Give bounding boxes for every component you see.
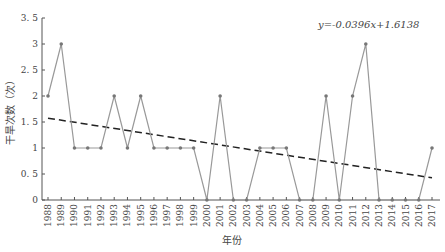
data-point — [324, 94, 328, 98]
data-point — [338, 198, 342, 202]
data-point — [192, 146, 196, 150]
data-point — [351, 94, 355, 98]
line-chart: 00. 511. 522. 533. 519881989199019911992… — [0, 0, 445, 252]
y-tick-label: 3. 5 — [21, 13, 38, 23]
data-point — [139, 94, 143, 98]
data-point — [205, 198, 209, 202]
y-tick-label: 1. 5 — [21, 117, 38, 127]
x-tick-label: 2007 — [295, 204, 305, 227]
data-point — [73, 146, 77, 150]
x-tick-label: 1991 — [83, 204, 93, 227]
x-tick-label: 2012 — [361, 204, 371, 227]
x-tick-label: 2008 — [308, 204, 318, 227]
data-point — [245, 198, 249, 202]
data-point — [377, 198, 381, 202]
data-point — [152, 146, 156, 150]
x-tick-label: 2013 — [374, 204, 384, 227]
x-tick-label: 1989 — [56, 204, 66, 227]
y-tick-label: 2. 5 — [21, 65, 38, 75]
trend-equation: y=-0.0396x+1.6138 — [317, 19, 419, 30]
x-tick-label: 2010 — [334, 204, 344, 227]
y-tick-label: 0. 5 — [21, 169, 38, 179]
x-tick-label: 1997 — [162, 204, 172, 227]
y-axis-label: 干旱次数（次） — [4, 75, 16, 145]
x-tick-label: 2015 — [401, 204, 411, 227]
data-point — [364, 42, 368, 46]
data-point — [165, 146, 169, 150]
data-series — [46, 42, 434, 202]
data-point — [404, 198, 408, 202]
data-point — [112, 94, 116, 98]
x-tick-label: 1994 — [122, 204, 132, 227]
x-tick-label: 1995 — [136, 204, 146, 227]
y-tick-label: 2 — [32, 91, 38, 101]
x-tick-label: 2016 — [414, 204, 424, 227]
x-tick-label: 2003 — [242, 204, 252, 227]
data-point — [285, 146, 289, 150]
x-tick-label: 2017 — [427, 204, 437, 227]
x-tick-label: 1988 — [43, 204, 53, 227]
x-tick-label: 1999 — [189, 204, 199, 227]
data-point — [46, 94, 50, 98]
data-point — [99, 146, 103, 150]
data-point — [298, 198, 302, 202]
x-tick-label: 2002 — [228, 204, 238, 227]
x-tick-label: 1996 — [149, 204, 159, 227]
data-point — [430, 146, 434, 150]
data-point — [271, 146, 275, 150]
data-point — [390, 198, 394, 202]
x-tick-label: 1998 — [175, 204, 185, 227]
data-point — [179, 146, 183, 150]
data-point — [59, 42, 63, 46]
data-point — [126, 146, 130, 150]
x-tick-label: 2000 — [202, 204, 212, 227]
x-tick-label: 2011 — [348, 204, 358, 227]
axes: 00. 511. 522. 533. 519881989199019911992… — [21, 13, 440, 227]
data-point — [86, 146, 90, 150]
x-tick-label: 2009 — [321, 204, 331, 227]
x-tick-label: 1993 — [109, 204, 119, 227]
data-point — [311, 198, 315, 202]
data-point — [218, 94, 222, 98]
y-tick-label: 1 — [32, 143, 38, 153]
x-tick-label: 1990 — [69, 204, 79, 227]
y-tick-label: 0 — [32, 195, 38, 205]
x-tick-label: 2005 — [268, 204, 278, 227]
data-point — [417, 198, 421, 202]
x-tick-label: 2006 — [281, 204, 291, 227]
x-axis-label: 年份 — [222, 234, 242, 246]
x-tick-label: 1992 — [96, 204, 106, 227]
x-tick-label: 2001 — [215, 204, 225, 227]
data-point — [258, 146, 262, 150]
y-tick-label: 3 — [32, 39, 38, 49]
x-tick-label: 2014 — [387, 204, 397, 227]
data-point — [232, 198, 236, 202]
x-tick-label: 2004 — [255, 204, 265, 227]
